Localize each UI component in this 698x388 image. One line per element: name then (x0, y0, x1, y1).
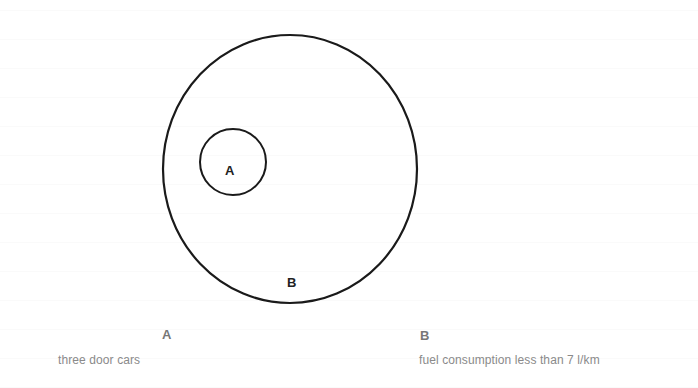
venn-diagram (0, 0, 698, 388)
legend-b-text: fuel consumption less than 7 l/km (419, 353, 600, 367)
set-a-circle (200, 129, 266, 195)
set-a-circle-label: A (225, 163, 234, 178)
legend-b-letter: B (420, 328, 429, 343)
legend-a-letter: A (162, 327, 171, 342)
set-b-circle-label: B (287, 275, 296, 290)
legend-a-text: three door cars (58, 353, 140, 367)
